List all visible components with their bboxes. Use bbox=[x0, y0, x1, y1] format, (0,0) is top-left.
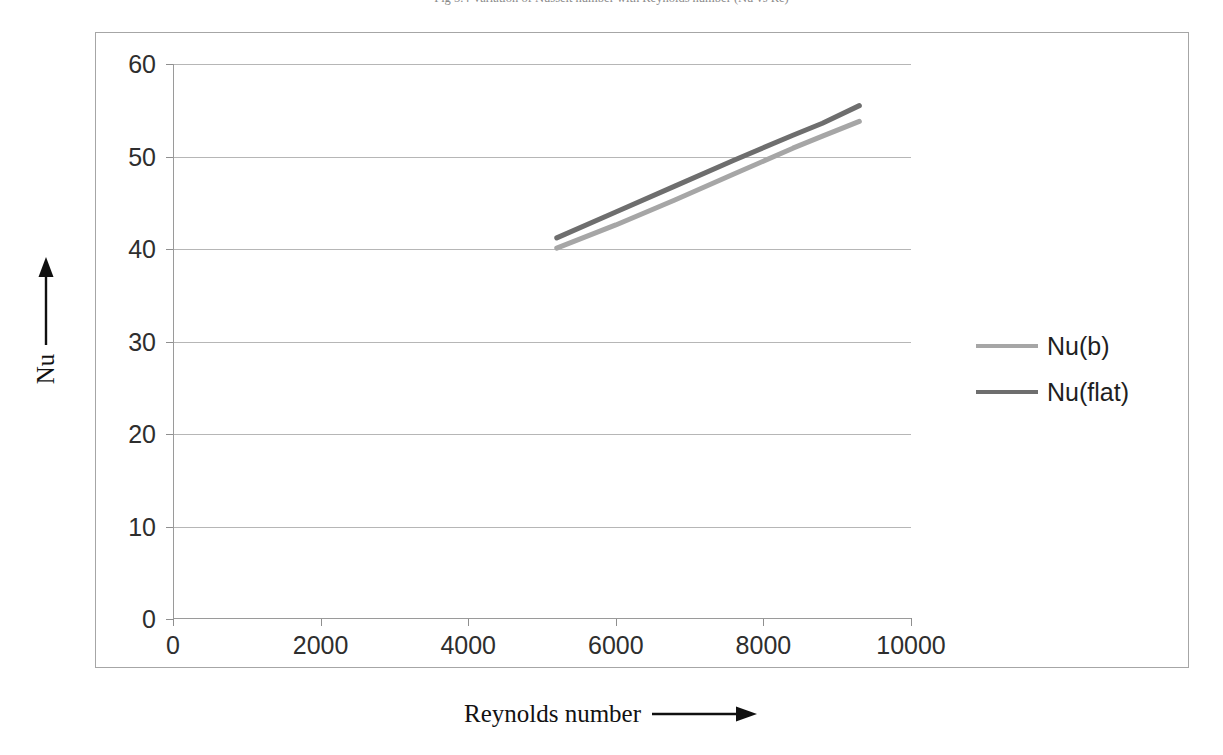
x-axis-title: Reynolds number bbox=[0, 700, 1223, 728]
legend-item[interactable]: Nu(flat) bbox=[976, 369, 1166, 415]
y-tick-label: 10 bbox=[128, 512, 156, 541]
series-line-nuflat bbox=[557, 106, 860, 238]
x-tick-label: 4000 bbox=[440, 631, 496, 660]
up-arrow-icon bbox=[35, 255, 57, 347]
plot-area: 0102030405060 0200040006000800010000 bbox=[173, 64, 911, 619]
legend-label: Nu(flat) bbox=[1047, 378, 1129, 407]
legend-label: Nu(b) bbox=[1047, 332, 1110, 361]
x-tick-label: 2000 bbox=[293, 631, 349, 660]
legend-swatch-icon bbox=[976, 344, 1038, 348]
figure-caption: Fig 5.4 Variation of Nusselt number with… bbox=[0, 0, 1223, 6]
x-tick-label: 6000 bbox=[588, 631, 644, 660]
chart-frame: 0102030405060 0200040006000800010000 Nu(… bbox=[95, 32, 1189, 668]
x-tick bbox=[763, 618, 764, 626]
x-tick bbox=[173, 618, 174, 626]
right-arrow-icon bbox=[651, 703, 759, 725]
y-tick-label: 20 bbox=[128, 420, 156, 449]
x-tick bbox=[468, 618, 469, 626]
chart-legend: Nu(b)Nu(flat) bbox=[976, 323, 1166, 415]
legend-swatch-icon bbox=[976, 390, 1038, 394]
x-axis-title-label: Reynolds number bbox=[464, 700, 641, 728]
y-tick-label: 60 bbox=[128, 50, 156, 79]
series-line-nub bbox=[557, 121, 860, 248]
y-tick-label: 50 bbox=[128, 142, 156, 171]
x-tick bbox=[616, 618, 617, 626]
y-tick-label: 40 bbox=[128, 235, 156, 264]
y-axis-title-label: Nu bbox=[32, 354, 60, 385]
y-axis-title: Nu bbox=[26, 255, 66, 383]
x-tick bbox=[911, 618, 912, 626]
x-tick-label: 0 bbox=[166, 631, 180, 660]
y-tick-label: 0 bbox=[142, 605, 156, 634]
x-tick-label: 10000 bbox=[876, 631, 946, 660]
figure-caption-strip: Fig 5.4 Variation of Nusselt number with… bbox=[0, 0, 1223, 7]
legend-item[interactable]: Nu(b) bbox=[976, 323, 1166, 369]
x-tick-label: 8000 bbox=[736, 631, 792, 660]
x-tick bbox=[321, 618, 322, 626]
y-tick-label: 30 bbox=[128, 327, 156, 356]
series-plot bbox=[173, 64, 911, 619]
